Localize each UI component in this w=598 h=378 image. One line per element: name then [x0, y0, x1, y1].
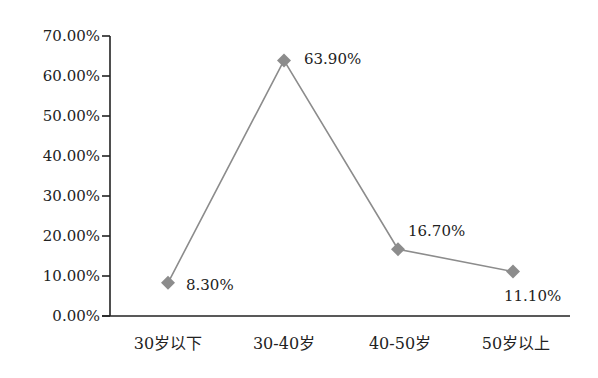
diamond-marker — [161, 276, 175, 290]
diamond-marker — [506, 265, 520, 279]
y-tick-label: 0.00% — [52, 308, 100, 324]
x-tick-label: 50岁以上 — [482, 335, 550, 353]
diamond-marker — [277, 53, 291, 67]
y-tick-label: 10.00% — [43, 268, 100, 284]
series-markers — [161, 53, 520, 289]
y-tick-label: 60.00% — [43, 68, 100, 84]
data-label: 63.90% — [304, 51, 361, 67]
data-label: 8.30% — [186, 277, 234, 293]
x-tick-label: 40-50岁 — [369, 335, 431, 353]
y-tick-label: 70.00% — [43, 28, 100, 44]
x-tick-label: 30-40岁 — [253, 335, 315, 353]
data-label: 11.10% — [504, 288, 561, 304]
data-label: 16.70% — [408, 223, 465, 239]
series-line — [168, 60, 513, 282]
y-tick-marks — [102, 36, 110, 316]
y-tick-label: 20.00% — [43, 228, 100, 244]
x-tick-label: 30岁以下 — [134, 335, 202, 353]
y-tick-label: 30.00% — [43, 188, 100, 204]
y-tick-label: 50.00% — [43, 108, 100, 124]
y-tick-label: 40.00% — [43, 148, 100, 164]
diamond-marker — [391, 242, 405, 256]
